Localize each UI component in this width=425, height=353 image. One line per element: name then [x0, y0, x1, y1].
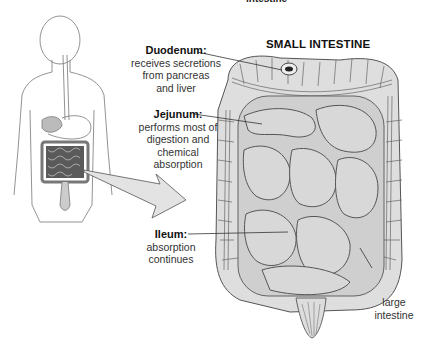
label-large-intestine: large intestine: [366, 296, 422, 321]
magnify-arrow: [84, 170, 186, 218]
label-ileum-title: Ileum:: [140, 228, 202, 241]
label-ileum-line: continues: [140, 253, 202, 266]
rectum: [296, 298, 326, 338]
label-ileum: Ileum: absorption continues: [140, 228, 202, 266]
label-duodenum-line: and liver: [124, 82, 228, 95]
label-large-intestine-line: large: [366, 296, 422, 309]
label-jejunum-line: digestion and: [130, 133, 226, 146]
label-jejunum-title: Jejunum:: [130, 108, 226, 121]
label-jejunum-line: absorption: [130, 158, 226, 171]
label-duodenum-title: Duodenum:: [124, 44, 228, 57]
diagram-stage: intestine SMALL INTESTINE: [0, 0, 425, 353]
label-jejunum-line: chemical: [130, 146, 226, 159]
label-duodenum: Duodenum: receives secretions from pancr…: [124, 44, 228, 94]
label-large-intestine-line: intestine: [366, 309, 422, 322]
label-ileum-line: absorption: [140, 241, 202, 254]
label-duodenum-line: from pancreas: [124, 69, 228, 82]
label-duodenum-line: receives secretions: [124, 57, 228, 70]
label-jejunum-line: performs most of: [130, 121, 226, 134]
label-jejunum: Jejunum: performs most of digestion and …: [130, 108, 226, 171]
